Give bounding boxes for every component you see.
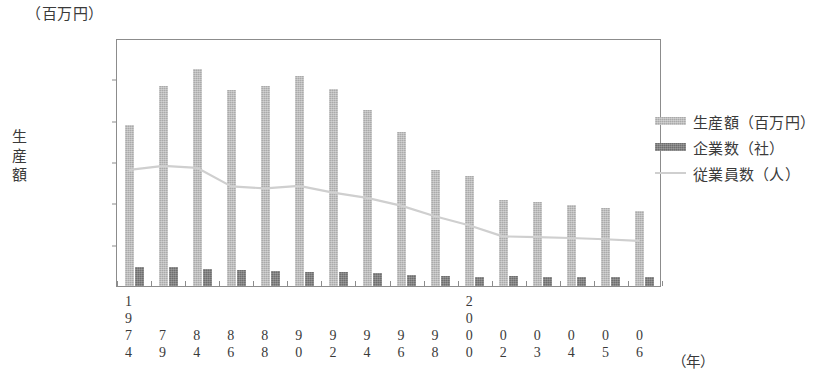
legend-label: 企業数（社） <box>693 137 785 158</box>
x-axis-label-digit: 0 <box>466 310 473 327</box>
x-axis-label-digit: 9 <box>329 327 336 344</box>
legend-item[interactable]: 従業員数（人） <box>655 160 835 186</box>
x-axis-label-digit: 1 <box>125 293 132 310</box>
x-axis-label: 86 <box>227 293 234 361</box>
x-axis-label-digit: 9 <box>363 327 370 344</box>
x-axis-label-digit: 4 <box>568 344 575 361</box>
x-axis-label-digit <box>329 293 336 310</box>
employees-line-layer <box>117 40 660 286</box>
x-axis-label-digit <box>636 310 643 327</box>
x-axis-label: 92 <box>329 293 336 361</box>
x-axis-label: 06 <box>636 293 643 361</box>
x-axis-label-digit: 8 <box>432 344 439 361</box>
x-axis-label-digit: 0 <box>534 327 541 344</box>
x-axis-label-digit <box>363 293 370 310</box>
x-axis-label-digit: 9 <box>432 327 439 344</box>
x-axis-unit-label: （年） <box>672 350 714 371</box>
x-axis-label-digit <box>261 310 268 327</box>
y-axis-title: 生産額 <box>8 128 30 185</box>
x-axis-label: 98 <box>432 293 439 361</box>
x-axis-label-digit: 0 <box>295 344 302 361</box>
x-axis-label: 94 <box>363 293 370 361</box>
x-axis-label: 79 <box>159 293 166 361</box>
x-axis-label-digit <box>534 293 541 310</box>
x-axis-labels: 1974 79 84 86 88 90 92 94 96 982000 02 0… <box>116 293 661 363</box>
x-axis-label-digit <box>500 293 507 310</box>
x-axis-label-digit <box>227 310 234 327</box>
x-axis-label-digit <box>602 293 609 310</box>
x-axis-label-digit <box>261 293 268 310</box>
x-axis-label-digit: 5 <box>602 344 609 361</box>
x-axis-label-digit <box>363 310 370 327</box>
x-axis-label-digit: 2 <box>329 344 336 361</box>
x-axis-label-digit <box>193 310 200 327</box>
x-axis-label-digit: 6 <box>227 344 234 361</box>
x-axis-label: 96 <box>398 293 405 361</box>
x-axis-label-digit <box>432 293 439 310</box>
legend-swatch-bar-light-icon <box>655 117 686 125</box>
legend-swatch-bar-dark-icon <box>655 143 686 151</box>
x-axis-label-digit: 8 <box>193 327 200 344</box>
x-axis-label-digit <box>295 310 302 327</box>
x-axis-label-digit: 2 <box>466 293 473 310</box>
y-axis-unit-caption: （百万円） <box>26 2 104 23</box>
x-axis-label-digit: 0 <box>602 327 609 344</box>
x-axis-label-digit: 0 <box>500 327 507 344</box>
x-axis-label: 84 <box>193 293 200 361</box>
x-axis-label-digit: 9 <box>398 327 405 344</box>
x-axis-label-digit <box>329 310 336 327</box>
x-axis-label-digit: 8 <box>261 344 268 361</box>
y-axis-title-char: 額 <box>8 166 30 185</box>
y-axis-tick-labels <box>36 39 112 287</box>
x-axis-label-digit: 7 <box>159 327 166 344</box>
x-axis-label-digit <box>398 293 405 310</box>
x-axis-label-digit <box>193 293 200 310</box>
legend-item[interactable]: 企業数（社） <box>655 134 835 160</box>
x-axis-label-digit: 0 <box>466 344 473 361</box>
x-axis-label-digit <box>534 310 541 327</box>
plot-area <box>116 39 661 287</box>
x-axis-label-digit: 9 <box>125 310 132 327</box>
x-axis-label: 2000 <box>466 293 473 361</box>
x-axis-label-digit <box>159 293 166 310</box>
x-axis-label-digit <box>568 293 575 310</box>
legend-item[interactable]: 生産額（百万円） <box>655 108 835 134</box>
x-axis-label-digit <box>432 310 439 327</box>
y-axis-title-char: 産 <box>8 147 30 166</box>
x-axis-label-digit <box>568 310 575 327</box>
x-axis-label-digit <box>159 310 166 327</box>
x-axis-label-digit: 9 <box>295 327 302 344</box>
production-value-chart: （百万円） 生産額 1974 79 84 86 88 90 92 94 96 9… <box>0 0 835 386</box>
x-axis-label: 02 <box>500 293 507 361</box>
legend-swatch-line-icon <box>655 169 686 177</box>
legend-label: 従業員数（人） <box>693 163 800 184</box>
chart-legend: 生産額（百万円）企業数（社）従業員数（人） <box>655 108 835 186</box>
x-axis-label-digit: 4 <box>363 344 370 361</box>
x-axis-label-digit <box>602 310 609 327</box>
x-axis-label-digit <box>398 310 405 327</box>
x-axis-label-digit <box>227 293 234 310</box>
x-axis-label-digit: 4 <box>125 344 132 361</box>
x-axis-label-digit <box>295 293 302 310</box>
x-axis-label: 1974 <box>125 293 132 361</box>
x-axis-label-digit: 4 <box>193 344 200 361</box>
x-axis-label: 03 <box>534 293 541 361</box>
x-axis-label-digit: 8 <box>227 327 234 344</box>
x-axis-label: 04 <box>568 293 575 361</box>
x-axis-label-digit: 9 <box>159 344 166 361</box>
x-axis-label-digit: 7 <box>125 327 132 344</box>
x-axis-label-digit: 6 <box>398 344 405 361</box>
x-axis-label: 05 <box>602 293 609 361</box>
x-axis-tick-mark <box>662 281 663 286</box>
y-axis-title-char: 生 <box>8 128 30 147</box>
x-axis-label: 90 <box>295 293 302 361</box>
legend-label: 生産額（百万円） <box>693 111 815 132</box>
x-axis-label-digit: 3 <box>534 344 541 361</box>
x-axis-label-digit: 8 <box>261 327 268 344</box>
x-axis-label: 88 <box>261 293 268 361</box>
x-axis-label-digit: 6 <box>636 344 643 361</box>
x-axis-label-digit: 0 <box>636 327 643 344</box>
x-axis-label-digit <box>636 293 643 310</box>
x-axis-label-digit: 0 <box>466 327 473 344</box>
x-axis-label-digit <box>500 310 507 327</box>
